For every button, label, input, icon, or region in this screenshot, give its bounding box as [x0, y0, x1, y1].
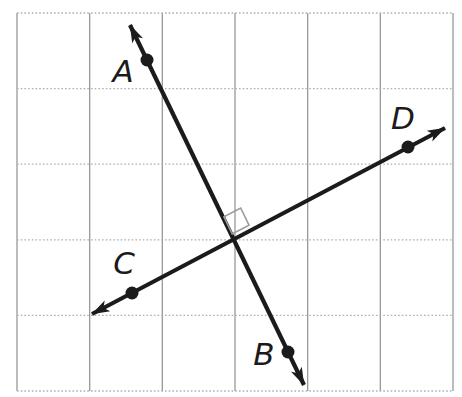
point-D-label: D: [391, 100, 415, 136]
labels-layer: ABCD: [110, 53, 415, 372]
line-CD: [92, 128, 445, 314]
point-C-label: C: [113, 245, 135, 281]
lines-layer: [92, 25, 445, 385]
grid-layer: [17, 13, 453, 391]
geometry-figure: ABCD: [0, 0, 462, 397]
point-D-dot: [402, 141, 415, 154]
line-AB: [130, 25, 304, 385]
point-B-label: B: [253, 336, 274, 372]
geometry-diagram: ABCD: [0, 0, 462, 397]
point-A-label: A: [110, 53, 133, 89]
point-C-dot: [126, 287, 139, 300]
point-B-dot: [282, 346, 295, 359]
point-A-dot: [141, 54, 154, 67]
